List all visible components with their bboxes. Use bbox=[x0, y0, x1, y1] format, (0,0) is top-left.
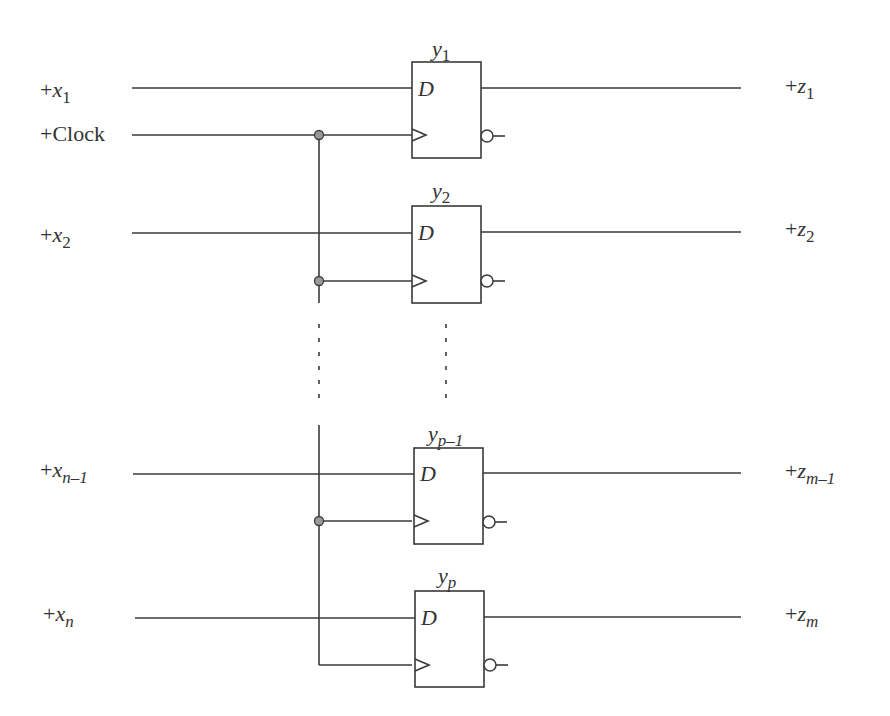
output-label: +zm bbox=[785, 601, 818, 631]
output-label: +z1 bbox=[785, 73, 814, 103]
flip-flop-1: D y1 +x1 +z1 bbox=[40, 36, 814, 158]
output-label: +z2 bbox=[785, 216, 814, 246]
clock-junction-1 bbox=[315, 131, 324, 140]
clock-label: +Clock bbox=[40, 121, 105, 146]
clock-bus bbox=[132, 131, 412, 666]
inverted-output-bubble-icon bbox=[483, 516, 495, 528]
flip-flop-label: y2 bbox=[430, 178, 450, 207]
d-input-label: D bbox=[420, 605, 437, 630]
output-label: +zm–1 bbox=[785, 458, 835, 488]
d-input-label: D bbox=[419, 461, 436, 486]
input-label: +x1 bbox=[40, 77, 71, 107]
clock-junction-2 bbox=[315, 277, 324, 286]
input-label: +xn–1 bbox=[40, 457, 88, 487]
inverted-output-bubble-icon bbox=[481, 275, 493, 287]
flip-flop-label: yp–1 bbox=[426, 421, 463, 450]
flip-flop-p-minus-1: D yp–1 +xn–1 +zm–1 bbox=[40, 421, 835, 544]
flip-flop-label: yp bbox=[436, 563, 456, 592]
d-flip-flop-register-diagram: +Clock D y1 +x1 +z1 D y2 +x2 +z2 D yp–1 bbox=[0, 0, 890, 716]
d-input-label: D bbox=[417, 76, 434, 101]
flip-flop-p: D yp +xn +zm bbox=[43, 563, 818, 687]
clock-junction-3 bbox=[315, 517, 324, 526]
flip-flop-label: y1 bbox=[430, 36, 450, 65]
input-label: +x2 bbox=[40, 222, 71, 252]
inverted-output-bubble-icon bbox=[484, 659, 496, 671]
input-label: +xn bbox=[43, 601, 74, 631]
flip-flop-2: D y2 +x2 +z2 bbox=[40, 178, 814, 303]
d-input-label: D bbox=[417, 220, 434, 245]
inverted-output-bubble-icon bbox=[481, 130, 493, 142]
